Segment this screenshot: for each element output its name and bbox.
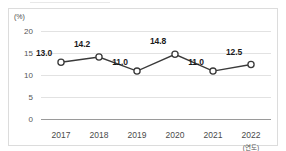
data-label-2022: 12.5 — [217, 47, 251, 57]
y-tick-10: 10 — [11, 71, 33, 80]
data-point-2018 — [96, 54, 102, 60]
y-tick-5: 5 — [11, 93, 33, 102]
y-axis-unit-label: (%) — [14, 13, 25, 20]
chart-frame: (%) 20 15 10 5 0 13.0 14.2 11.0 14.8 11.… — [8, 8, 278, 146]
cropped-edge-artifact — [30, 2, 110, 3]
data-label-2018: 14.2 — [65, 39, 99, 49]
data-point-2019 — [134, 68, 140, 74]
x-tick-2018: 2018 — [79, 130, 119, 140]
data-label-2019: 11.0 — [103, 57, 137, 67]
x-axis-unit-label: (연도) — [231, 142, 271, 151]
x-tick-2020: 2020 — [155, 130, 195, 140]
data-label-2017: 13.0 — [27, 48, 61, 58]
line-chart-plot — [9, 9, 277, 145]
x-tick-2022: 2022 — [231, 130, 271, 140]
y-tick-20: 20 — [11, 27, 33, 36]
y-tick-0: 0 — [11, 115, 33, 124]
data-label-2021: 11.0 — [179, 57, 213, 67]
data-label-2020: 14.8 — [141, 36, 175, 46]
x-tick-2019: 2019 — [117, 130, 157, 140]
chart-screenshot: (%) 20 15 10 5 0 13.0 14.2 11.0 14.8 11.… — [0, 0, 286, 151]
data-point-2021 — [210, 68, 216, 74]
x-tick-2017: 2017 — [41, 130, 81, 140]
x-tick-2021: 2021 — [193, 130, 233, 140]
data-point-2020 — [172, 51, 178, 57]
data-point-2017 — [58, 59, 64, 65]
data-point-2022 — [248, 61, 254, 67]
